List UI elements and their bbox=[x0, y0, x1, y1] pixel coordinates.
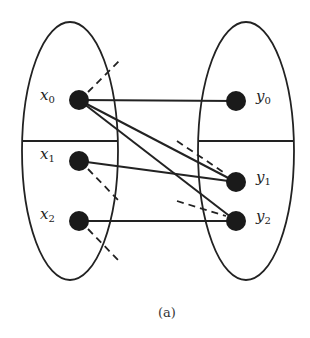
dashed-stub-y1 bbox=[177, 141, 226, 174]
dashed-stub-x1 bbox=[88, 169, 119, 201]
right-set-ellipse bbox=[198, 22, 294, 280]
figure-caption: (a) bbox=[158, 305, 176, 320]
node-x0 bbox=[69, 90, 89, 110]
dashed-stub-x0 bbox=[88, 61, 119, 92]
node-x1 bbox=[69, 151, 89, 171]
node-y0 bbox=[226, 91, 246, 111]
node-y2 bbox=[226, 211, 246, 231]
bipartite-diagram: x0 x1 x2 y0 y1 y2 (a) bbox=[0, 0, 310, 338]
node-y1 bbox=[226, 172, 246, 192]
label-x0: x0 bbox=[40, 88, 55, 105]
label-x1: x1 bbox=[40, 147, 55, 164]
label-y1: y1 bbox=[256, 170, 271, 187]
label-y0: y0 bbox=[256, 89, 271, 106]
node-x2 bbox=[69, 211, 89, 231]
edge-x0-y0 bbox=[79, 100, 236, 101]
label-x2: x2 bbox=[40, 207, 55, 224]
label-y2: y2 bbox=[256, 209, 271, 226]
left-set-ellipse bbox=[22, 22, 118, 280]
edge-x0-y2 bbox=[79, 100, 236, 221]
